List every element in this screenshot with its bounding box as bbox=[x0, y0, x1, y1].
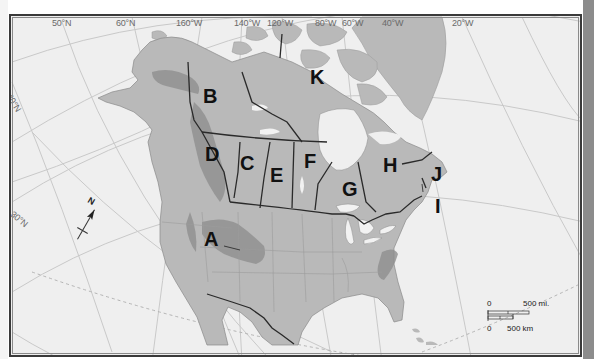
region-label-j: J bbox=[431, 164, 442, 184]
page-margin-right bbox=[583, 0, 594, 359]
lat-label-60n: 60°N bbox=[116, 18, 135, 28]
region-label-b: B bbox=[203, 86, 217, 106]
scale-bar: 0 500 mi. 0 500 km bbox=[487, 299, 557, 339]
lon-label-120w: 120°W bbox=[267, 18, 293, 28]
region-label-e: E bbox=[270, 165, 283, 185]
lon-label-140w: 140°W bbox=[234, 18, 260, 28]
region-label-g: G bbox=[342, 179, 358, 199]
region-label-d: D bbox=[205, 144, 219, 164]
lon-label-160w: 160°W bbox=[176, 18, 202, 28]
region-label-i: I bbox=[435, 196, 441, 216]
scale-bottom-label: 500 km bbox=[507, 324, 533, 333]
scale-top-zero: 0 bbox=[487, 299, 491, 308]
lat-label-50n: 50°N bbox=[52, 18, 71, 28]
lon-label-60w: 60°W bbox=[342, 18, 363, 28]
scale-bottom-zero: 0 bbox=[487, 324, 491, 333]
region-label-f: F bbox=[304, 151, 316, 171]
scale-top-label: 500 mi. bbox=[523, 299, 549, 308]
region-label-h: H bbox=[383, 155, 397, 175]
lon-label-20w: 20°W bbox=[452, 18, 473, 28]
north-arrow: N bbox=[63, 196, 113, 246]
map-frame: 50°N 60°N 160°W 140°W 120°W 80°W 60°W 40… bbox=[9, 14, 582, 357]
lon-label-80w: 80°W bbox=[315, 18, 336, 28]
scale-bar-graphic bbox=[487, 309, 537, 323]
region-label-c: C bbox=[240, 153, 254, 173]
page-margin-left bbox=[0, 0, 8, 359]
region-label-a: A bbox=[204, 229, 218, 249]
region-label-k: K bbox=[310, 67, 324, 87]
lon-label-40w: 40°W bbox=[382, 18, 403, 28]
page-margin-top bbox=[8, 0, 583, 15]
